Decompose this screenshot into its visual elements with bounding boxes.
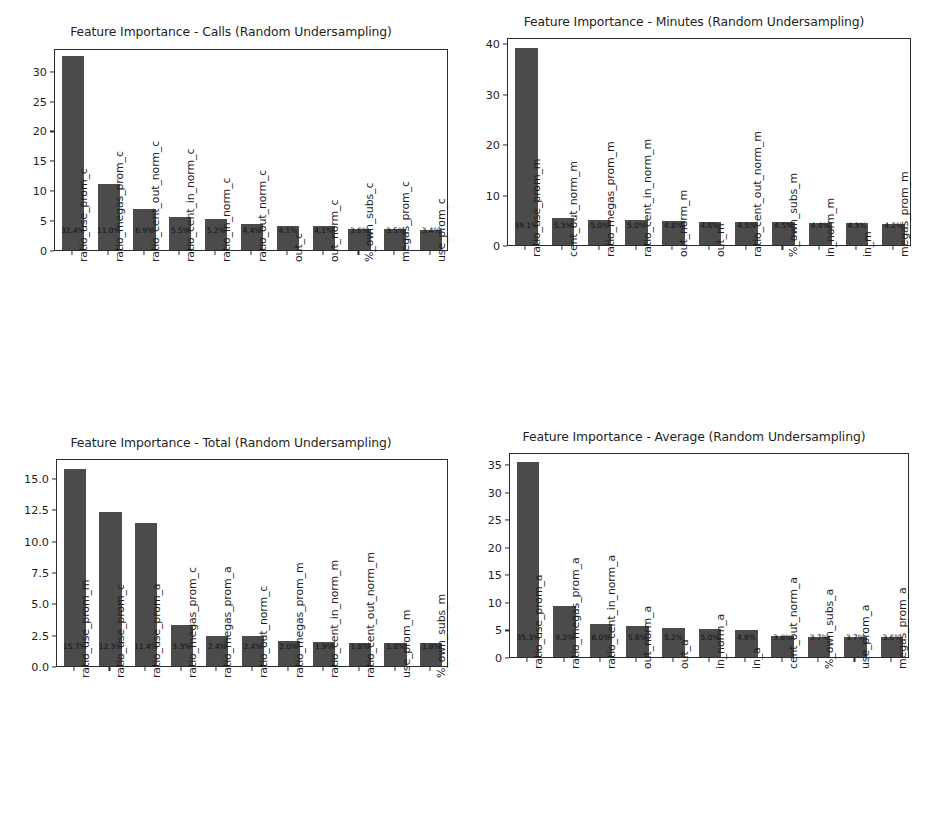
x-tick-mark	[527, 658, 528, 662]
chart-title-average: Feature Importance - Average (Random Und…	[463, 429, 925, 444]
x-axis-category-label: ratio_megas_prom_c	[113, 151, 126, 262]
x-axis-category-label: ratio_use_prom_c	[77, 168, 90, 262]
x-tick-mark	[781, 658, 782, 662]
x-axis-category-label: ratio_use_prom_c	[114, 584, 127, 678]
chart-panel-calls: Feature Importance - Calls (Random Under…	[0, 0, 462, 415]
x-axis-category-label: ratio_cent_out_norm_m	[751, 131, 764, 257]
x-tick-mark	[819, 246, 820, 250]
x-tick-mark	[109, 667, 110, 671]
x-axis-category-label: megas_prom_a	[896, 587, 909, 669]
x-axis-category-label: ratio_megas_prom_a	[569, 557, 582, 669]
x-tick-mark	[855, 246, 856, 250]
x-tick-mark	[818, 658, 819, 662]
x-tick-mark	[890, 658, 891, 662]
x-axis-category-label: %_own_subs_c	[363, 183, 376, 262]
x-tick-mark	[892, 246, 893, 250]
x-axis-category-label: cent_out_norm_m	[567, 161, 580, 257]
x-axis-category-label: ratio_use_prom_a	[150, 584, 163, 678]
x-tick-mark	[322, 251, 323, 255]
x-axis-category-label: ratio_use_prom_m	[79, 580, 92, 678]
x-tick-mark	[180, 667, 181, 671]
x-tick-mark	[107, 251, 108, 255]
x-axis-category-label: out_m	[714, 224, 727, 257]
x-tick-mark	[672, 246, 673, 250]
x-axis-category-label: ratio_megas_prom_m	[604, 141, 617, 257]
x-tick-mark	[708, 246, 709, 250]
chart-panel-minutes: Feature Importance - Minutes (Random Und…	[463, 0, 925, 415]
x-tick-mark	[250, 251, 251, 255]
chart-panel-average: Feature Importance - Average (Random Und…	[463, 415, 925, 829]
x-axis-category-label: out_norm_m	[677, 190, 690, 257]
x-axis-category-label: out_norm_c	[328, 200, 341, 262]
x-axis-category-label: ratio_megas_prom_a	[221, 566, 234, 678]
x-tick-mark	[635, 246, 636, 250]
x-axis-category-label: ratio_cent_out_norm_m	[364, 552, 377, 678]
x-axis-category-label: in_norm_a	[714, 614, 727, 669]
x-axis-category-label: ratio_cent_out_norm_c	[149, 141, 162, 262]
x-axis-category-label: use_prom_c	[435, 198, 448, 262]
x-axis-category-label: ratio_cent_in_norm_c	[184, 149, 197, 262]
x-tick-mark	[251, 667, 252, 671]
y-axis-calls: 051015202530	[0, 49, 54, 251]
x-axis-category-label: ratio_cent_in_norm_a	[605, 555, 618, 669]
x-axis-category-label: ratio_megas_prom_m	[293, 562, 306, 678]
x-tick-mark	[745, 658, 746, 662]
x-tick-mark	[287, 667, 288, 671]
x-axis-category-label: %_own_subs_m	[787, 173, 800, 257]
bar-value-label: 4.9%	[737, 633, 756, 642]
chart-title-minutes: Feature Importance - Minutes (Random Und…	[463, 14, 925, 29]
x-tick-mark	[215, 251, 216, 255]
x-axis-category-label: use_prom_a	[859, 605, 872, 669]
x-tick-mark	[563, 658, 564, 662]
x-tick-mark	[216, 667, 217, 671]
x-axis-category-label: ratio_use_prom_a	[532, 575, 545, 669]
x-axis-category-label: in_a	[750, 647, 763, 669]
x-axis-category-label: ratio_out_norm_c	[257, 586, 270, 678]
x-axis-category-label: out_c	[292, 233, 305, 262]
x-axis-category-label: megas_prom_c	[399, 181, 412, 262]
x-tick-mark	[854, 658, 855, 662]
chart-title-calls: Feature Importance - Calls (Random Under…	[0, 24, 462, 39]
x-axis-category-label: in_m	[861, 231, 874, 257]
x-tick-mark	[562, 246, 563, 250]
x-axis-category-label: out_norm_a	[641, 606, 654, 669]
x-axis-category-label: %_own_subs_a	[823, 589, 836, 669]
x-tick-mark	[143, 251, 144, 255]
x-tick-mark	[323, 667, 324, 671]
chart-title-total: Feature Importance - Total (Random Under…	[0, 435, 462, 450]
y-axis-total: 0.02.55.07.510.012.515.0	[0, 459, 56, 667]
x-tick-mark	[782, 246, 783, 250]
x-tick-mark	[430, 251, 431, 255]
x-tick-mark	[599, 658, 600, 662]
y-axis-minutes: 010203040	[463, 38, 507, 246]
x-axis-category-label: ratio_out_norm_c	[256, 170, 269, 262]
x-tick-mark	[636, 658, 637, 662]
x-tick-mark	[430, 667, 431, 671]
x-tick-mark	[71, 251, 72, 255]
x-axis-category-label: use_prom_m	[400, 610, 413, 678]
x-tick-mark	[73, 667, 74, 671]
x-tick-mark	[179, 251, 180, 255]
x-tick-mark	[598, 246, 599, 250]
x-axis-category-label: ratio_use_prom_m	[530, 159, 543, 257]
x-axis-category-label: megas_prom_m	[898, 171, 911, 257]
x-tick-mark	[745, 246, 746, 250]
x-axis-category-label: ratio_megas_prom_c	[186, 567, 199, 678]
bar-value-label: 4.3%	[848, 221, 867, 230]
x-tick-mark	[394, 251, 395, 255]
x-axis-category-label: in_norm_m	[824, 198, 837, 257]
x-axis-category-label: cent_out_norm_a	[787, 577, 800, 669]
x-tick-mark	[672, 658, 673, 662]
x-axis-category-label: out_a	[678, 639, 691, 669]
x-tick-mark	[394, 667, 395, 671]
x-tick-mark	[145, 667, 146, 671]
chart-panel-total: Feature Importance - Total (Random Under…	[0, 415, 462, 829]
x-axis-category-label: ratio_cent_in_norm_m	[641, 139, 654, 257]
x-tick-mark	[708, 658, 709, 662]
x-tick-mark	[525, 246, 526, 250]
feature-importance-figure: Feature Importance - Calls (Random Under…	[0, 0, 925, 829]
y-axis-average: 05101520253035	[463, 453, 509, 658]
x-axis-category-label: ratio_cent_in_norm_m	[328, 560, 341, 678]
x-tick-mark	[286, 251, 287, 255]
x-axis-category-label: %_own_subs_m	[435, 594, 448, 678]
